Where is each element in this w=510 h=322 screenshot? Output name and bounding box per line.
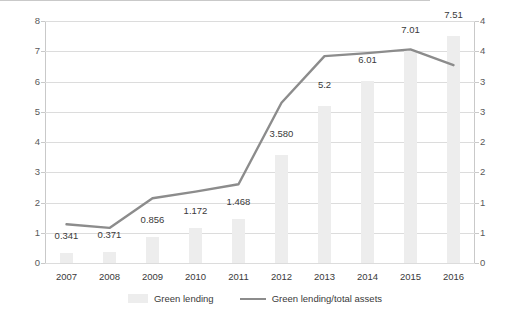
legend-bar-swatch-icon bbox=[128, 294, 148, 303]
chart-container: 0.3410.3710.8561.1721.4683.5805.26.017.0… bbox=[0, 0, 510, 322]
y-axis-right-tick-label: 4 bbox=[480, 46, 502, 56]
y-axis-left-tick-label: 6 bbox=[22, 77, 40, 87]
plot-area bbox=[45, 21, 475, 263]
y-axis-right-tick-label: 1 bbox=[480, 228, 502, 238]
x-axis-tick-label: 2014 bbox=[346, 272, 389, 282]
legend-label-green-lending: Green lending bbox=[154, 294, 214, 304]
bar-value-label: 7.01 bbox=[389, 25, 432, 35]
x-axis-tick-label: 2011 bbox=[217, 272, 260, 282]
y-axis-right-tick-label: 3 bbox=[480, 77, 502, 87]
line-path bbox=[67, 49, 454, 228]
bar-value-label: 1.468 bbox=[217, 197, 260, 207]
x-axis-line bbox=[0, 0, 430, 1]
y-axis-left-tick-label: 5 bbox=[22, 107, 40, 117]
y-axis-left-tick-label: 8 bbox=[22, 16, 40, 26]
bar-value-label: 0.856 bbox=[131, 215, 174, 225]
y-axis-right-tick-label: 0 bbox=[480, 258, 502, 268]
y-axis-left-tick-label: 4 bbox=[22, 137, 40, 147]
x-axis-tick-label: 2010 bbox=[174, 272, 217, 282]
y-axis-left-tickmark bbox=[41, 233, 45, 234]
legend-item-green-lending: Green lending bbox=[128, 294, 214, 304]
x-axis-tick-label: 2009 bbox=[131, 272, 174, 282]
x-axis-tick-label: 2007 bbox=[45, 272, 88, 282]
y-axis-left-tickmark bbox=[41, 172, 45, 173]
bar-value-label: 1.172 bbox=[174, 206, 217, 216]
y-axis-right-tickmark bbox=[475, 172, 479, 173]
x-axis-tick-label: 2012 bbox=[260, 272, 303, 282]
legend-line-swatch-icon bbox=[240, 298, 266, 301]
y-axis-right-tickmark bbox=[475, 112, 479, 113]
y-axis-left-tick-label: 0 bbox=[22, 258, 40, 268]
bar-value-label: 3.580 bbox=[260, 129, 303, 139]
y-axis-right-tick-label: 4 bbox=[480, 16, 502, 26]
y-axis-left-tickmark bbox=[41, 263, 45, 264]
bar-value-label: 7.51 bbox=[432, 10, 475, 20]
y-axis-left-tickmark bbox=[41, 82, 45, 83]
y-axis-left-tickmark bbox=[41, 112, 45, 113]
chart-legend: Green lending Green lending/total assets bbox=[0, 294, 510, 304]
bar-value-label: 0.341 bbox=[45, 231, 88, 241]
y-axis-left-tick-label: 7 bbox=[22, 46, 40, 56]
y-axis-left-tick-label: 2 bbox=[22, 198, 40, 208]
y-axis-right-tick-label: 2 bbox=[480, 167, 502, 177]
y-axis-right-tickmark bbox=[475, 233, 479, 234]
x-axis-tick-label: 2016 bbox=[432, 272, 475, 282]
y-axis-left-tickmark bbox=[41, 51, 45, 52]
y-axis-left-tickmark bbox=[41, 142, 45, 143]
y-axis-right-tickmark bbox=[475, 82, 479, 83]
bar-value-label: 0.371 bbox=[88, 230, 131, 240]
y-axis-left-tickmark bbox=[41, 203, 45, 204]
x-axis-tick-label: 2013 bbox=[303, 272, 346, 282]
bar-value-label: 5.2 bbox=[303, 80, 346, 90]
y-axis-right-tickmark bbox=[475, 263, 479, 264]
bar-value-label: 6.01 bbox=[346, 55, 389, 65]
line-series-green-lending-total-assets bbox=[45, 21, 475, 263]
legend-label-green-lending-total-assets: Green lending/total assets bbox=[272, 294, 382, 304]
y-axis-right-tickmark bbox=[475, 203, 479, 204]
y-axis-right-tickmark bbox=[475, 51, 479, 52]
y-axis-right-tick-label: 2 bbox=[480, 137, 502, 147]
y-axis-left-tick-label: 1 bbox=[22, 228, 40, 238]
y-axis-left-tick-label: 3 bbox=[22, 167, 40, 177]
y-axis-right-tickmark bbox=[475, 21, 479, 22]
y-axis-right-tickmark bbox=[475, 142, 479, 143]
y-axis-right-tick-label: 3 bbox=[480, 107, 502, 117]
y-axis-left-tickmark bbox=[41, 21, 45, 22]
x-axis-tick-label: 2008 bbox=[88, 272, 131, 282]
y-axis-right-tick-label: 1 bbox=[480, 198, 502, 208]
gridline bbox=[45, 263, 475, 264]
x-axis-tick-label: 2015 bbox=[389, 272, 432, 282]
legend-item-green-lending-total-assets: Green lending/total assets bbox=[240, 294, 382, 304]
